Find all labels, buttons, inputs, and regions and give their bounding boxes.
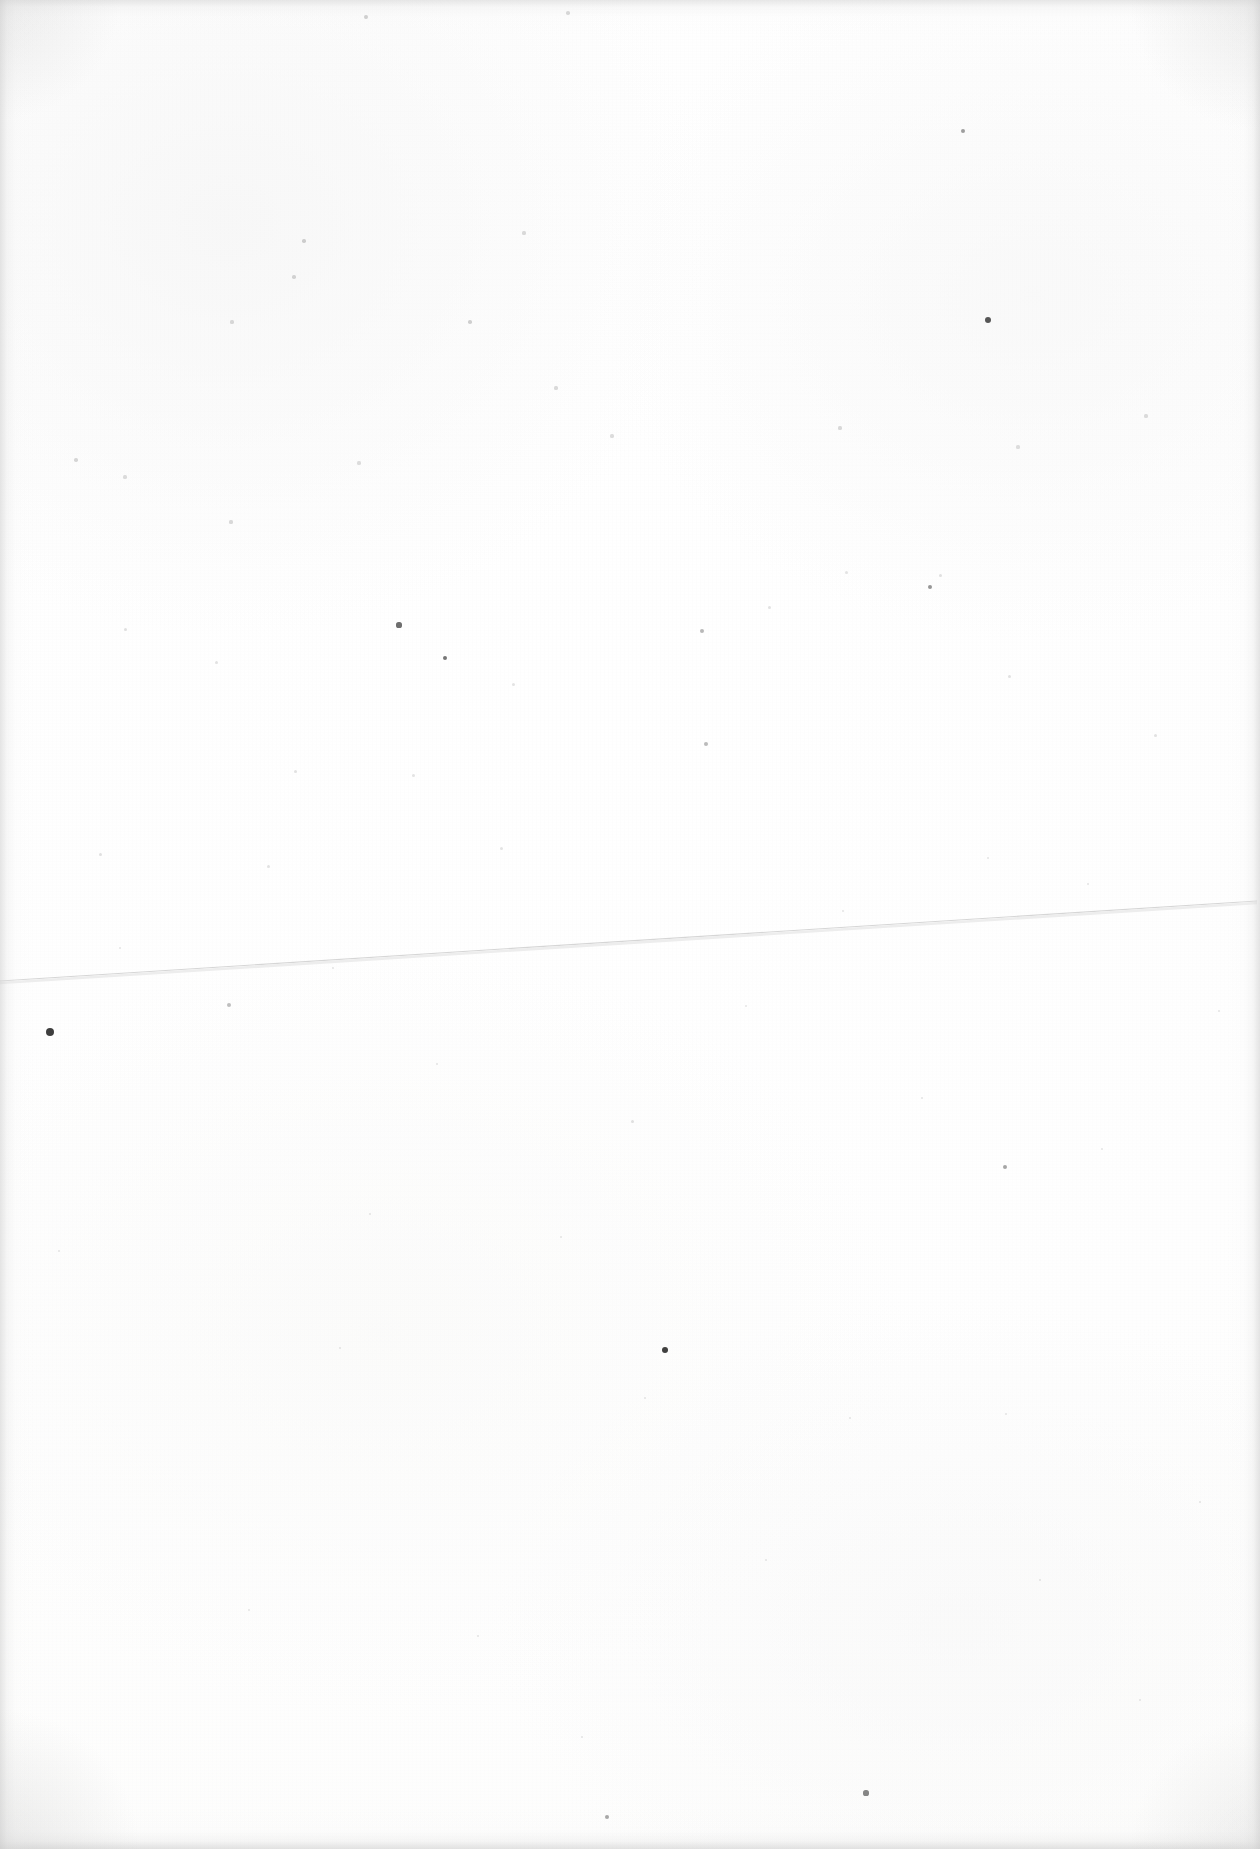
scanned-page [0, 0, 1260, 1849]
paper-tonal-variation [0, 0, 1260, 1849]
